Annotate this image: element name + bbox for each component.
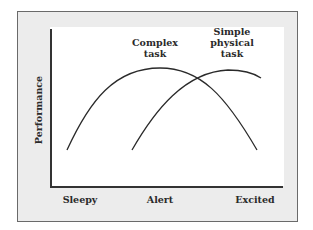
- curve-simple-physical-task: [132, 70, 261, 150]
- curves-layer: [0, 0, 313, 230]
- curve-complex-task: [67, 68, 257, 150]
